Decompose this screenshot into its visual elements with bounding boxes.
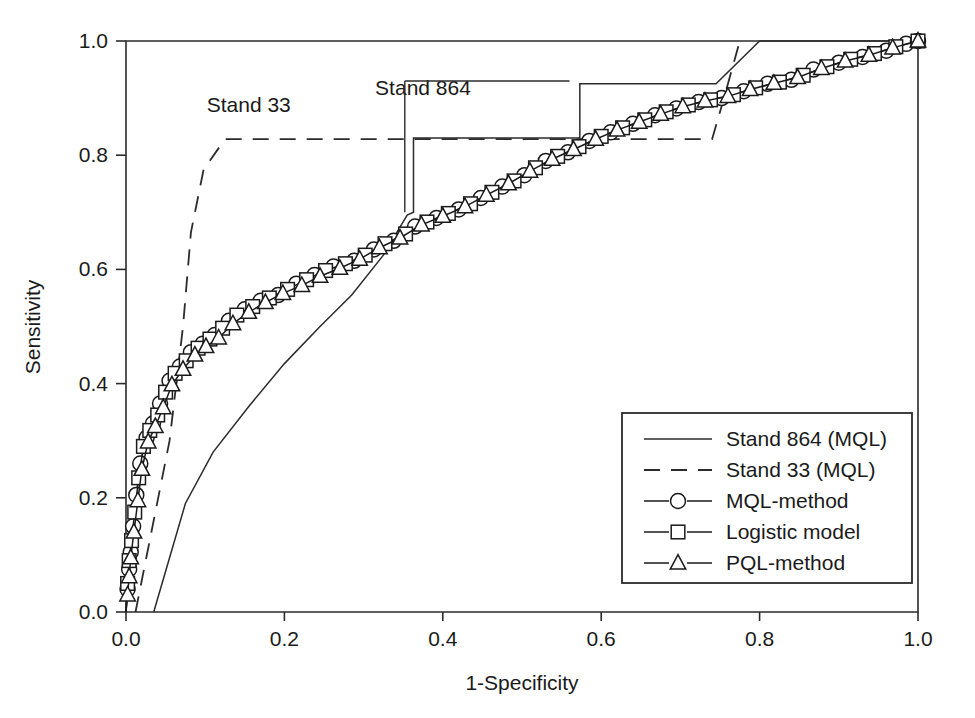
legend-label-4: PQL-method <box>726 551 845 574</box>
legend-label-2: MQL-method <box>726 489 849 512</box>
y-tick-label-5: 1.0 <box>79 29 108 52</box>
y-axis-label: Sensitivity <box>21 279 44 374</box>
y-tick-label-4: 0.8 <box>79 143 108 166</box>
chart-background <box>0 0 975 718</box>
y-tick-label-1: 0.2 <box>79 486 108 509</box>
annotation-stand-33: Stand 33 <box>207 93 291 116</box>
x-tick-label-1: 0.2 <box>270 627 299 650</box>
roc-chart-page: 0.00.20.40.60.81.0 0.00.20.40.60.81.0 St… <box>0 0 975 718</box>
x-tick-label-0: 0.0 <box>111 627 140 650</box>
x-tick-label-2: 0.4 <box>428 627 458 650</box>
y-tick-label-0: 0.0 <box>79 600 108 623</box>
x-axis-label: 1-Specificity <box>465 671 579 694</box>
legend-label-3: Logistic model <box>726 520 860 543</box>
x-tick-label-4: 0.8 <box>745 627 774 650</box>
x-tick-label-5: 1.0 <box>903 627 932 650</box>
legend-label-0: Stand 864 (MQL) <box>726 427 887 450</box>
x-tick-label-3: 0.6 <box>587 627 616 650</box>
roc-curve-chart: 0.00.20.40.60.81.0 0.00.20.40.60.81.0 St… <box>0 0 975 718</box>
y-tick-label-2: 0.4 <box>79 372 109 395</box>
chart-legend: Stand 864 (MQL)Stand 33 (MQL)MQL-methodL… <box>622 413 912 583</box>
legend-label-1: Stand 33 (MQL) <box>726 458 875 481</box>
y-tick-label-3: 0.6 <box>79 257 108 280</box>
annotation-stand-864: Stand 864 <box>375 76 471 99</box>
data-marker-square-legend-3 <box>671 525 685 539</box>
data-marker-circle-legend-2 <box>671 494 686 509</box>
